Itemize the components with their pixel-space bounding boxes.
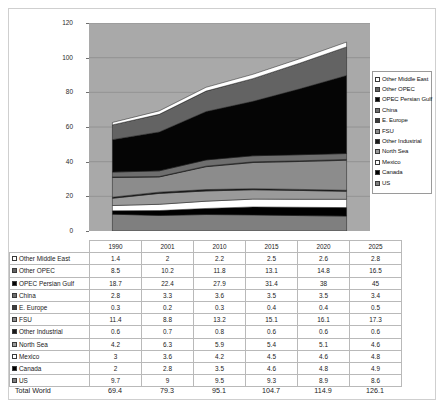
table-row-label: OPEC Persian Gulf — [19, 280, 74, 287]
table-cell: 3 — [90, 350, 142, 362]
series-swatch-icon — [12, 293, 17, 298]
legend-swatch-icon — [375, 149, 380, 154]
y-axis-tick-mark — [86, 23, 89, 24]
table-row: FSU11.48.813.215.116.117.3 — [10, 314, 402, 326]
total-world-value: 104.7 — [245, 386, 297, 395]
legend-item[interactable]: OPEC Persian Gulf — [375, 95, 430, 105]
series-swatch-icon — [12, 329, 17, 334]
table-cell: 2.8 — [350, 253, 402, 265]
legend-swatch-icon — [375, 160, 380, 165]
table-cell: 2 — [90, 362, 142, 374]
legend-item-label: OPEC Persian Gulf — [382, 96, 432, 103]
legend-item[interactable]: Other OPEC — [375, 84, 430, 94]
table-cell: 0.6 — [350, 326, 402, 338]
legend-item[interactable]: Mexico — [375, 157, 430, 167]
legend-item-label: FSU — [382, 128, 394, 135]
legend-swatch-icon — [375, 97, 380, 102]
legend-item[interactable]: E. Europe — [375, 116, 430, 126]
table-header-row: 199020012010201520202025 — [10, 241, 402, 253]
legend-item[interactable]: FSU — [375, 126, 430, 136]
table-cell: 0.6 — [298, 326, 350, 338]
table-header: 199020012010201520202025 — [10, 241, 402, 253]
table-cell: 11.4 — [90, 314, 142, 326]
total-world-value: 126.1 — [349, 386, 401, 395]
legend-item-label: China — [382, 107, 397, 114]
y-axis-tick-label: 60 — [9, 123, 73, 130]
table-row: Canada22.83.54.64.84.9 — [10, 362, 402, 374]
area-series — [112, 214, 346, 231]
legend-item-label: E. Europe — [382, 117, 408, 124]
table-cell: 4.8 — [350, 350, 402, 362]
legend-swatch-icon — [375, 87, 380, 92]
table-row-header: US — [10, 375, 90, 387]
series-swatch-icon — [12, 268, 17, 273]
legend-item[interactable]: Other Industrial — [375, 136, 430, 146]
legend-item[interactable]: Canada — [375, 168, 430, 178]
table-row-header: Canada — [10, 362, 90, 374]
table-cell: 15.1 — [246, 314, 298, 326]
table-cell: 3.5 — [246, 289, 298, 301]
table-row-header: FSU — [10, 314, 90, 326]
table-row: Other Middle East1.422.22.52.62.8 — [10, 253, 402, 265]
table-row-label: Canada — [19, 365, 41, 372]
y-axis-tick-label: 80 — [9, 88, 73, 95]
y-axis-tick-mark — [86, 162, 89, 163]
table-cell: 5.4 — [246, 338, 298, 350]
table-row-label: Other Industrial — [19, 328, 63, 335]
table-column-header: 2001 — [142, 241, 194, 253]
legend-item-label: Canada — [382, 169, 402, 176]
table-cell: 4.5 — [246, 350, 298, 362]
table-cell: 14.8 — [298, 265, 350, 277]
legend-item[interactable]: Other Middle East — [375, 74, 430, 84]
series-swatch-icon — [12, 305, 17, 310]
table-cell: 10.2 — [142, 265, 194, 277]
table-cell: 4.9 — [350, 362, 402, 374]
table-row-label: China — [19, 292, 36, 299]
table-cell: 8.8 — [142, 314, 194, 326]
table-column-header: 1990 — [90, 241, 142, 253]
table-cell: 11.8 — [194, 265, 246, 277]
table-cell: 3.3 — [142, 289, 194, 301]
table-cell: 18.7 — [90, 277, 142, 289]
y-axis-tick-mark — [86, 231, 89, 232]
legend-item[interactable]: China — [375, 105, 430, 115]
total-world-row: Total World 69.479.395.1104.7114.9126.1 — [9, 386, 401, 400]
series-swatch-icon — [12, 366, 17, 371]
table-row: E. Europe0.30.20.30.40.40.5 — [10, 301, 402, 313]
table-column-header: 2015 — [246, 241, 298, 253]
table-row-header: Other OPEC — [10, 265, 90, 277]
legend-item[interactable]: North Sea — [375, 147, 430, 157]
series-swatch-icon — [12, 317, 17, 322]
y-axis-tick-label: 100 — [9, 54, 73, 61]
table-row-label: US — [19, 377, 28, 384]
table-cell: 6.3 — [142, 338, 194, 350]
chart-legend: Other Middle EastOther OPECOPEC Persian … — [372, 71, 432, 194]
table-cell: 3.6 — [142, 350, 194, 362]
table-cell: 3.5 — [298, 289, 350, 301]
table-cell: 2 — [142, 253, 194, 265]
table-cell: 4.2 — [90, 338, 142, 350]
table-row-header: China — [10, 289, 90, 301]
table-cell: 45 — [350, 277, 402, 289]
table-cell: 27.9 — [194, 277, 246, 289]
y-axis-tick-mark — [86, 92, 89, 93]
table-cell: 4.6 — [350, 338, 402, 350]
y-axis-tick-label: 40 — [9, 158, 73, 165]
table-cell: 16.1 — [298, 314, 350, 326]
table-cell: 9.7 — [90, 375, 142, 387]
table-row-label: Other OPEC — [19, 267, 55, 274]
table-column-header: 2020 — [298, 241, 350, 253]
stacked-area-svg — [89, 23, 370, 231]
table-cell: 2.6 — [298, 253, 350, 265]
table-row-header: Mexico — [10, 350, 90, 362]
legend-item-label: Other Middle East — [382, 76, 428, 83]
table-row: North Sea4.26.35.95.45.14.6 — [10, 338, 402, 350]
series-swatch-icon — [12, 378, 17, 383]
plot-area — [89, 23, 370, 231]
table-row-label: FSU — [19, 316, 32, 323]
table-cell: 0.6 — [90, 326, 142, 338]
table-cell: 0.6 — [246, 326, 298, 338]
legend-item[interactable]: US — [375, 178, 430, 188]
table-cell: 5.9 — [194, 338, 246, 350]
table-cell: 38 — [298, 277, 350, 289]
